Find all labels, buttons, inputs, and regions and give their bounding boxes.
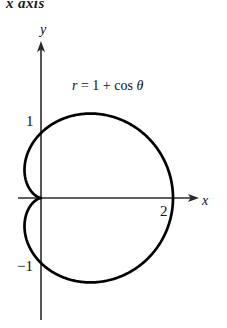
y-tick-label-neg1: −1 (17, 258, 33, 275)
x-axis-label: x (202, 193, 208, 209)
y-axis-label: y (40, 22, 46, 38)
polar-equation-annotation: r = 1 + cos θ (72, 78, 143, 94)
x-tick-label-2: 2 (160, 203, 168, 220)
equation-plus: + (103, 78, 111, 93)
equation-equals: = (81, 78, 89, 93)
equation-theta: θ (136, 78, 143, 93)
polar-plot-svg (0, 0, 227, 328)
cardioid-figure: x axis y x 1 −1 2 r = 1 + cos θ (0, 0, 227, 328)
equation-cos: cos (114, 78, 133, 93)
y-tick-label-1: 1 (26, 113, 34, 130)
